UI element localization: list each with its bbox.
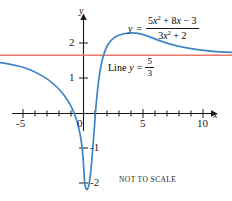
x-tick-label-0: 0 [77,118,83,129]
y-tick-label-minus1: -1 [90,142,99,153]
equation-equals: = [136,23,142,34]
equation-fraction: 5x2 + 8x − 3 3x2 + 2 [146,15,198,42]
x-tick-label-10: 10 [197,118,208,129]
x-tick-label-5: 5 [140,118,146,129]
x-axis-name: x [213,110,217,120]
asymptote-prefix: Line [108,62,126,73]
y-axis-name: y [79,6,83,16]
y-tick-label-1: 1 [69,72,75,83]
equation-denominator: 3x2 + 2 [156,29,188,42]
y-tick-label-2: 2 [69,37,75,48]
x-tick-label-minus5: -5 [16,118,25,129]
asymptote-numerator: 5 [145,57,154,67]
x-axis [12,109,212,118]
graph-figure: -5 0 5 10 2 1 -1 -2 x y y = 5x2 + 8x − 3… [0,0,232,201]
num-term-2: + 8 [163,15,176,26]
num-exponent-1: 2 [158,14,161,21]
y-tick-label-minus2: -2 [90,177,99,188]
asymptote-denominator: 3 [145,68,154,78]
not-to-scale-note: NOT TO SCALE [119,176,176,184]
asymptote-fraction: 5 3 [145,57,154,79]
equation-lhs: y [128,23,132,34]
num-var-2: x [176,15,180,26]
asymptote-label: Line y = 5 3 [108,57,154,79]
den-exponent: 2 [168,29,171,36]
asymptote-equals: = [137,62,143,73]
num-term-3: − 3 [183,15,196,26]
asymptote-lhs: y [129,62,133,73]
equation-numerator: 5x2 + 8x − 3 [146,15,198,28]
equation-annotation: y = 5x2 + 8x − 3 3x2 + 2 [128,15,199,42]
den-term-2: + 2 [173,30,186,41]
